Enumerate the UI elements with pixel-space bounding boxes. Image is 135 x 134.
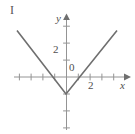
x-axis-label: x <box>120 80 125 91</box>
x-axis-arrow-icon <box>124 74 131 81</box>
x-axis-tick-label-2: 2 <box>88 80 94 91</box>
origin-label: 0 <box>69 62 75 73</box>
y-axis-arrow-icon <box>63 14 70 21</box>
figure-container: I y x 2 0 2 <box>0 0 135 134</box>
panel-label: I <box>10 4 14 16</box>
y-axis-label: y <box>56 13 61 24</box>
y-axis-tick-label-2: 2 <box>53 44 59 55</box>
absolute-value-graph <box>0 0 135 134</box>
